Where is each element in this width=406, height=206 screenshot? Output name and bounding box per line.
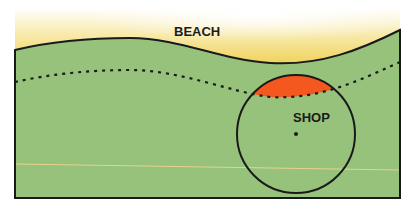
beach-label: BEACH [174,24,220,39]
shop-label: SHOP [293,110,330,125]
shop-point [294,132,298,136]
beach-shop-diagram: BEACH SHOP [0,0,406,206]
land-area [15,30,400,198]
